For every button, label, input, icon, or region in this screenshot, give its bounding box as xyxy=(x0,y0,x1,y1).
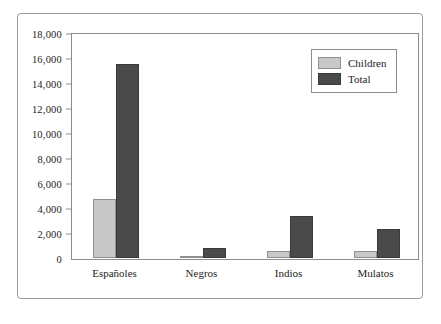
chart-legend: Children Total xyxy=(311,49,397,93)
legend-swatch-total xyxy=(318,73,341,85)
legend-label-children: Children xyxy=(348,57,387,69)
y-axis-tick-label: 2,000 xyxy=(37,229,62,240)
y-axis-tick-mark xyxy=(66,109,71,110)
bar-children-2 xyxy=(267,251,290,259)
bar-total-2 xyxy=(290,216,313,259)
y-axis-tick-label: 14,000 xyxy=(32,79,62,90)
legend-item-children: Children xyxy=(318,55,387,71)
bar-children-0 xyxy=(93,199,116,258)
bar-total-1 xyxy=(203,248,226,258)
bar-group xyxy=(72,64,159,258)
y-axis-tick-mark xyxy=(66,84,71,85)
y-axis-tick-label: 18,000 xyxy=(32,29,62,40)
y-axis-tick-mark xyxy=(66,159,71,160)
x-axis-label: Indios xyxy=(275,267,303,279)
bar-children-1 xyxy=(180,256,203,258)
y-axis-tick-label: 12,000 xyxy=(32,104,62,115)
x-axis-label: Negros xyxy=(186,267,218,279)
y-axis-tick-label: 16,000 xyxy=(32,54,62,65)
x-axis-label: Españoles xyxy=(92,267,137,279)
y-axis-tick-mark xyxy=(66,209,71,210)
bar-children-3 xyxy=(354,251,377,259)
legend-label-total: Total xyxy=(348,73,370,85)
bar-group xyxy=(159,248,246,258)
y-axis-tick-label: 6,000 xyxy=(37,179,62,190)
y-axis-tick-mark xyxy=(66,234,71,235)
y-axis-tick-label: 0 xyxy=(57,254,62,265)
chart-figure: Children Total 02,0004,0006,0008,00010,0… xyxy=(17,13,423,299)
legend-swatch-children xyxy=(318,57,341,69)
y-axis-tick-label: 8,000 xyxy=(37,154,62,165)
bar-total-3 xyxy=(377,229,400,258)
bar-group xyxy=(333,229,420,258)
y-axis-tick-label: 10,000 xyxy=(32,129,62,140)
y-axis-tick-mark xyxy=(66,34,71,35)
legend-item-total: Total xyxy=(318,71,387,87)
y-axis-tick-mark xyxy=(66,134,71,135)
y-axis-tick-label: 4,000 xyxy=(37,204,62,215)
bar-total-0 xyxy=(116,64,139,258)
x-axis-label: Mulatos xyxy=(357,267,393,279)
bar-group xyxy=(246,216,333,259)
y-axis-tick-mark xyxy=(66,184,71,185)
y-axis-tick-mark xyxy=(66,59,71,60)
